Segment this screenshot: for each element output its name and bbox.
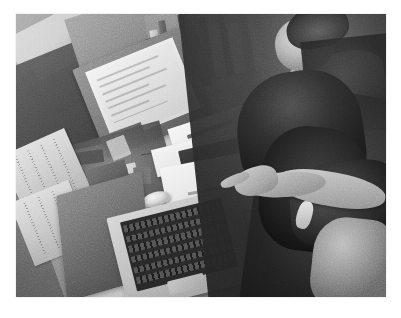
print-bottom-margin <box>16 300 386 316</box>
photo-print-frame <box>16 14 386 297</box>
clutter-item <box>105 134 130 160</box>
photograph-office-scene <box>16 14 386 297</box>
screenshot-root <box>0 0 401 318</box>
